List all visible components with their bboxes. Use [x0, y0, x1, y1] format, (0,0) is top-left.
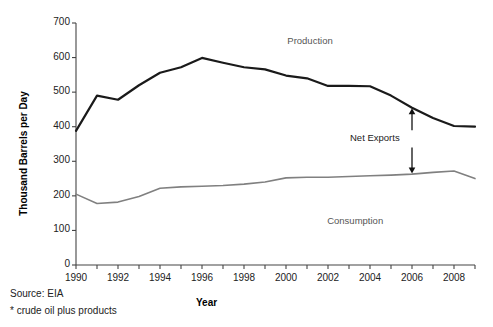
arrowhead-down-icon: [409, 168, 416, 174]
chart-figure: Thousand Barrels per Day Year 0100200300…: [0, 0, 493, 327]
x-axis-tick-label: 1990: [56, 272, 96, 283]
x-axis-tick-label: 2002: [308, 272, 348, 283]
footnote-note: * crude oil plus products: [10, 305, 117, 316]
series-label-consumption: Consumption: [327, 215, 383, 226]
x-axis-tick-label: 2000: [266, 272, 306, 283]
x-axis-tick-label: 2006: [392, 272, 432, 283]
x-axis-tick-label: 1996: [182, 272, 222, 283]
x-axis-tick-label: 2004: [350, 272, 390, 283]
y-axis-tick-label: 200: [36, 189, 70, 200]
x-axis-tick-label: 1992: [98, 272, 138, 283]
series-line-consumption: [76, 171, 475, 203]
y-axis-tick-label: 700: [36, 16, 70, 27]
net-exports-arrow: [409, 108, 416, 173]
y-axis-tick-label: 600: [36, 51, 70, 62]
y-axis-tick-label: 100: [36, 223, 70, 234]
series-line-production: [76, 58, 475, 131]
x-axis-tick-label: 2008: [434, 272, 474, 283]
y-axis-tick-label: 0: [36, 258, 70, 269]
x-axis-tick-label: 1994: [140, 272, 180, 283]
source-note: Source: EIA: [10, 288, 63, 299]
y-axis-tick-label: 300: [36, 154, 70, 165]
annotation-net-exports: Net Exports: [350, 132, 400, 143]
x-axis-tick-label: 1998: [224, 272, 264, 283]
y-axis-tick-label: 500: [36, 85, 70, 96]
y-axis-tick-label: 400: [36, 120, 70, 131]
series-label-production: Production: [287, 35, 332, 46]
